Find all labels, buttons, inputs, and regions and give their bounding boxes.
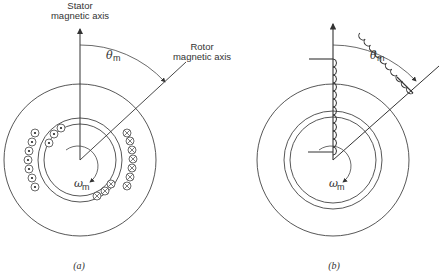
rotor-conductor-crosses: [94, 181, 114, 199]
rotor-axis-label-line2: magnetic axis: [173, 51, 231, 62]
svg-text:m: m: [82, 182, 90, 192]
rotor-coil: [357, 33, 413, 95]
svg-text:m: m: [337, 182, 345, 192]
theta-arc: [80, 45, 165, 82]
rotor-axis-line: [80, 62, 186, 160]
svg-text:m: m: [113, 53, 121, 63]
diagram-canvas: θ m ω m Stator magnetic axis Rotor magne…: [0, 0, 443, 278]
svg-text:θ: θ: [370, 49, 377, 62]
rotor-coil-lead: [397, 77, 413, 93]
stator-axis-label-line2: magnetic axis: [51, 10, 109, 21]
rotor-conductors-out: [45, 124, 65, 147]
theta-label-b: θ m: [370, 49, 385, 63]
svg-text:θ: θ: [106, 49, 113, 62]
stator-conductors-in: [123, 129, 137, 190]
caption-b: (b): [328, 260, 340, 272]
omega-label-b: ω m: [329, 177, 345, 192]
rotor-axis-line-b: [333, 66, 439, 160]
panel-b: θ m ω m (b): [257, 24, 439, 272]
panel-a: θ m ω m Stator magnetic axis Rotor magne…: [4, 0, 231, 272]
omega-label: ω m: [74, 177, 90, 192]
caption-a: (a): [73, 260, 85, 272]
stator-conductors-out: [24, 129, 39, 191]
svg-text:m: m: [377, 53, 385, 63]
